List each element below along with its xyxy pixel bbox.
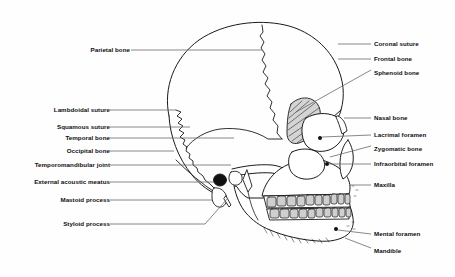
label-squamous-suture: Squamous suture bbox=[57, 124, 110, 130]
label-parietal-bone: Parietal bone bbox=[90, 47, 130, 53]
label-infraorbital-foramen: Infraorbital foramen bbox=[374, 161, 433, 167]
label-zygomatic-bone: Zygomatic bone bbox=[374, 146, 422, 152]
label-occipital-bone: Occipital bone bbox=[67, 148, 110, 154]
label-nasal-bone: Nasal bone bbox=[374, 115, 408, 121]
zygomatic-bone bbox=[289, 149, 325, 179]
infraorbital-foramen bbox=[325, 162, 329, 166]
tooth-upper bbox=[331, 194, 337, 204]
occipital-posterior-curve bbox=[169, 116, 220, 196]
tooth-upper bbox=[323, 195, 330, 205]
leader-mandible-angled bbox=[345, 238, 371, 248]
tooth-lower bbox=[290, 209, 298, 218]
tooth-lower bbox=[316, 208, 323, 217]
lower-teeth-row bbox=[267, 208, 351, 220]
leader-sphenoid-bone-angled bbox=[296, 70, 371, 112]
tooth-upper bbox=[338, 194, 344, 204]
tooth-lower bbox=[332, 208, 338, 217]
lacrimal-foramen bbox=[318, 136, 322, 140]
tooth-upper bbox=[345, 194, 350, 204]
tooth-lower bbox=[299, 209, 307, 218]
skull-anatomy-figure: Parietal bone Lambdoidal suture Squamous… bbox=[0, 0, 455, 277]
tooth-lower bbox=[280, 209, 289, 218]
nasal-aperture bbox=[340, 140, 353, 179]
mental-foramen bbox=[334, 227, 338, 231]
tooth-lower bbox=[324, 208, 331, 217]
label-maxilla: Maxilla bbox=[374, 182, 395, 188]
tooth-upper bbox=[306, 195, 314, 205]
tooth-upper bbox=[277, 196, 286, 206]
label-sphenoid-bone: Sphenoid bone bbox=[374, 70, 419, 76]
label-lambdoidal-suture: Lambdoidal suture bbox=[54, 107, 110, 113]
label-mastoid-process: Mastoid process bbox=[60, 197, 110, 203]
tooth-upper bbox=[315, 195, 322, 205]
label-mental-foramen: Mental foramen bbox=[374, 231, 420, 237]
tooth-upper bbox=[297, 196, 305, 206]
external-acoustic-meatus bbox=[214, 174, 227, 186]
tooth-lower bbox=[308, 209, 315, 218]
tooth-upper bbox=[267, 197, 276, 207]
label-mandible: Mandible bbox=[374, 248, 401, 254]
tooth-upper bbox=[287, 196, 296, 206]
mandibular-condyle bbox=[229, 171, 242, 185]
tooth-lower bbox=[339, 208, 345, 217]
coronal-suture bbox=[260, 25, 282, 139]
label-frontal-bone: Frontal bone bbox=[374, 56, 412, 62]
tooth-lower bbox=[346, 208, 351, 217]
upper-teeth-row bbox=[264, 194, 350, 208]
label-temporomandibular-joint: Temporomandibular joint bbox=[35, 162, 110, 168]
label-temporal-bone: Temporal bone bbox=[65, 135, 110, 141]
label-coronal-suture: Coronal suture bbox=[374, 41, 419, 47]
label-external-acoustic-meatus: External acoustic meatus bbox=[34, 179, 110, 185]
label-lacrimal-foramen: Lacrimal foramen bbox=[374, 132, 426, 138]
tooth-lower bbox=[270, 209, 279, 218]
label-styloid-process: Styloid process bbox=[63, 221, 110, 227]
